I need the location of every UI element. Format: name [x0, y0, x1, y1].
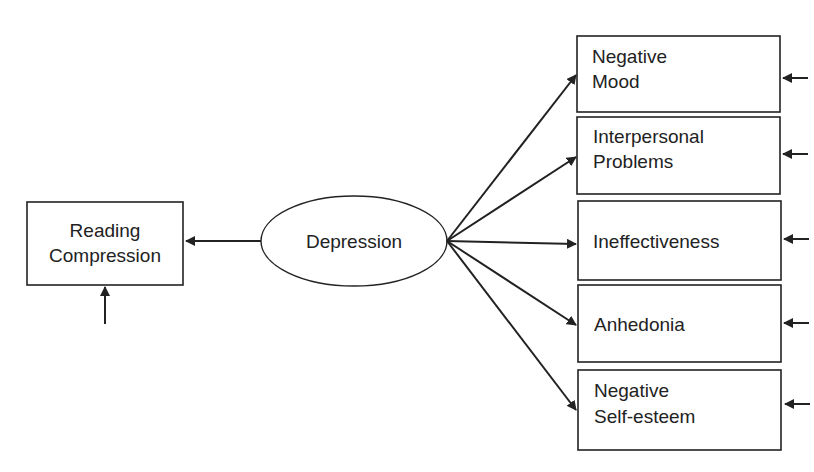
depression-label: Depression: [306, 231, 402, 252]
edge-depression-to-anhedonia: [447, 241, 576, 325]
reading-compression-node: Reading Compression: [27, 202, 183, 285]
negative-mood-label-line2: Mood: [592, 71, 640, 92]
anhedonia-node: Anhedonia: [578, 285, 781, 362]
negative-self-esteem-node: Negative Self-esteem: [578, 370, 781, 450]
negative-mood-label-line1: Negative: [592, 46, 667, 67]
anhedonia-label: Anhedonia: [594, 314, 685, 335]
negative-mood-node: Negative Mood: [577, 36, 780, 112]
depression-node: Depression: [261, 196, 447, 286]
interpersonal-label-line1: Interpersonal: [593, 126, 704, 147]
self-esteem-label-line2: Self-esteem: [594, 406, 695, 427]
reading-compression-label-line1: Reading: [70, 220, 141, 241]
self-esteem-label-line1: Negative: [594, 380, 669, 401]
edge-depression-to-self-esteem: [447, 241, 576, 410]
ineffectiveness-node: Ineffectiveness: [578, 201, 781, 280]
interpersonal-label-line2: Problems: [593, 151, 673, 172]
reading-compression-label-line2: Compression: [49, 245, 161, 266]
edge-depression-to-ineffectiveness: [447, 241, 576, 244]
sem-diagram: Reading Compression Depression Negative …: [0, 0, 814, 472]
interpersonal-problems-node: Interpersonal Problems: [577, 117, 780, 194]
ineffectiveness-label: Ineffectiveness: [593, 231, 719, 252]
edge-depression-to-negative-mood: [447, 75, 576, 241]
edge-depression-to-interpersonal: [447, 157, 576, 241]
